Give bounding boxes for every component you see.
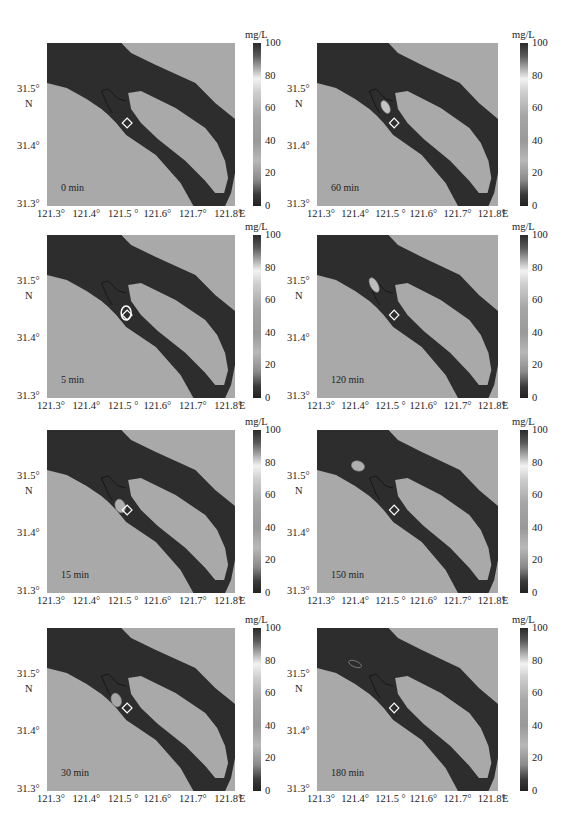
colorbar-tick: 60 (265, 687, 276, 698)
colorbar-tick: 100 (532, 622, 548, 633)
x-tick-label: 121.7° (444, 400, 472, 411)
colorbar (520, 430, 528, 593)
river-channel-north (47, 235, 126, 242)
colorbar-tick: 20 (532, 167, 543, 178)
y-tick-label: 31.4° (287, 527, 310, 538)
x-tick-label: 121.3° (307, 400, 335, 411)
river-channel-north (317, 43, 393, 50)
colorbar-tick: 20 (532, 359, 543, 370)
x-tick-label: 121.5 ° (375, 400, 405, 411)
y-tick-label: 31.4° (287, 140, 310, 151)
colorbar (253, 628, 261, 791)
x-tick-label: 121.6° (409, 793, 437, 804)
y-axis-unit: N (25, 683, 33, 694)
colorbar-tick: 20 (265, 359, 276, 370)
colorbar-tick: 0 (532, 392, 537, 403)
colorbar-tick: 40 (532, 135, 543, 146)
y-tick-label: 31.5° (287, 668, 310, 679)
x-tick-label: 121.6° (143, 400, 171, 411)
y-tick-label: 31.4° (17, 332, 40, 343)
x-tick-label: 121.6° (143, 208, 171, 219)
x-axis-unit: E (239, 400, 245, 411)
colorbar-tick: 60 (532, 489, 543, 500)
x-tick-label: 121.4° (72, 208, 100, 219)
y-axis-unit: N (295, 290, 303, 301)
x-tick-label: 121.3° (307, 793, 335, 804)
y-axis-unit: N (25, 98, 33, 109)
y-tick-label: 31.5° (17, 668, 40, 679)
colorbar-tick: 100 (532, 37, 548, 48)
x-tick-label: 121.5 ° (108, 595, 138, 606)
x-axis-unit: E (239, 208, 245, 219)
x-axis-unit: E (502, 595, 508, 606)
time-label: 180 min (331, 767, 364, 778)
x-tick-label: 121.4° (341, 208, 369, 219)
x-tick-label: 121.3° (37, 793, 65, 804)
colorbar-tick: 0 (265, 785, 270, 796)
colorbar-tick: 0 (265, 200, 270, 211)
x-tick-label: 121.5 ° (375, 595, 405, 606)
x-tick-label: 121.7° (444, 793, 472, 804)
colorbar-tick: 60 (532, 687, 543, 698)
y-tick-label: 31.4° (17, 140, 40, 151)
colorbar-tick: 80 (265, 655, 276, 666)
x-tick-label: 121.7° (179, 595, 207, 606)
time-label: 0 min (61, 182, 84, 193)
x-tick-label: 121.6° (409, 400, 437, 411)
x-tick-label: 121.7° (444, 208, 472, 219)
colorbar-tick: 40 (265, 135, 276, 146)
y-tick-label: 31.4° (17, 725, 40, 736)
x-tick-label: 121.6° (409, 208, 437, 219)
x-tick-label: 121.4° (341, 793, 369, 804)
colorbar-tick: 60 (265, 102, 276, 113)
y-tick-label: 31.4° (287, 332, 310, 343)
colorbar-tick: 20 (532, 554, 543, 565)
colorbar-tick: 60 (265, 294, 276, 305)
colorbar-tick: 40 (265, 327, 276, 338)
river-channel-north (47, 430, 126, 437)
x-tick-label: 121.5 ° (108, 793, 138, 804)
x-axis-unit: E (502, 793, 508, 804)
colorbar-tick: 20 (265, 167, 276, 178)
y-tick-label: 31.5° (17, 83, 40, 94)
x-tick-label: 121.8° (214, 595, 242, 606)
colorbar-tick: 100 (532, 424, 548, 435)
colorbar-tick: 100 (265, 424, 281, 435)
colorbar-tick: 60 (532, 102, 543, 113)
x-axis-unit: E (239, 793, 245, 804)
x-tick-label: 121.5 ° (375, 793, 405, 804)
x-tick-label: 121.5 ° (108, 208, 138, 219)
colorbar-tick: 20 (265, 554, 276, 565)
river-channel-north (317, 235, 393, 242)
x-tick-label: 121.4° (72, 400, 100, 411)
time-label: 5 min (61, 374, 84, 385)
time-label: 150 min (331, 569, 364, 580)
colorbar-tick: 80 (532, 262, 543, 273)
x-tick-label: 121.7° (444, 595, 472, 606)
colorbar-tick: 60 (532, 294, 543, 305)
colorbar-tick: 40 (532, 720, 543, 731)
colorbar-tick: 40 (532, 522, 543, 533)
x-tick-label: 121.4° (72, 793, 100, 804)
colorbar-tick: 0 (265, 587, 270, 598)
x-tick-label: 121.4° (341, 595, 369, 606)
colorbar-tick: 40 (265, 522, 276, 533)
y-tick-label: 31.5° (287, 275, 310, 286)
x-tick-label: 121.8° (214, 400, 242, 411)
x-tick-label: 121.4° (72, 595, 100, 606)
y-axis-unit: N (25, 485, 33, 496)
colorbar (253, 430, 261, 593)
colorbar (520, 235, 528, 398)
y-axis-unit: N (295, 98, 303, 109)
time-label: 30 min (61, 767, 89, 778)
colorbar-tick: 20 (532, 752, 543, 763)
x-axis-unit: E (239, 595, 245, 606)
x-tick-label: 121.7° (179, 400, 207, 411)
y-tick-label: 31.5° (287, 83, 310, 94)
colorbar-tick: 0 (532, 200, 537, 211)
colorbar-tick: 80 (532, 457, 543, 468)
river-channel-north (47, 43, 126, 50)
x-tick-label: 121.6° (143, 793, 171, 804)
colorbar-tick: 80 (265, 457, 276, 468)
colorbar-tick: 40 (532, 327, 543, 338)
